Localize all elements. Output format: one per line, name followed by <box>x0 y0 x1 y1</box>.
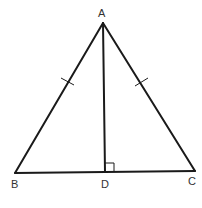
label-a: A <box>98 7 106 19</box>
label-d: D <box>101 178 109 190</box>
label-b: B <box>11 178 18 190</box>
triangle-diagram: A B D C <box>0 0 202 208</box>
right-angle-marker <box>105 163 114 172</box>
side-ac <box>103 23 195 171</box>
side-ab <box>15 23 103 173</box>
label-c: C <box>188 175 196 187</box>
altitude-ad <box>103 23 105 172</box>
